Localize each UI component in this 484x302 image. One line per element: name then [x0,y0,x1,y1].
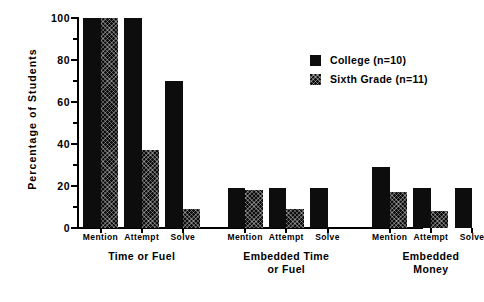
x-category-label: Attempt [269,232,304,242]
bar [286,209,304,228]
plot-area [78,18,422,228]
x-group-label: Embedded Timeor Fuel [243,250,329,275]
y-tick [71,227,77,229]
x-category-label: Solve [171,232,196,242]
x-group-label-line: Embedded Time [243,250,329,262]
x-category-label: Attempt [413,232,448,242]
bar [310,188,328,228]
bar [455,188,473,228]
bar [101,18,119,228]
x-category-label: Mention [227,232,262,242]
x-group-label-line: Time or Fuel [108,250,175,262]
y-tick-minor [73,164,77,166]
x-category-label: Mention [372,232,407,242]
legend-swatch-icon [310,55,321,66]
y-tick-label: 80 [38,54,70,66]
y-tick-label: 60 [38,96,70,108]
x-category-label: Solve [460,232,484,242]
x-group-label: Embedded Money [402,250,459,275]
bar [142,150,160,228]
x-category-label: Attempt [124,232,159,242]
bar [83,18,101,228]
x-category-label: Mention [83,232,118,242]
x-group-label-line: or Fuel [267,263,305,275]
y-tick-minor [73,38,77,40]
y-tick-minor [73,122,77,124]
chart-legend: College (n=10)Sixth Grade (n=11) [310,52,428,90]
y-tick-minor [73,80,77,82]
y-tick [71,17,77,19]
x-category-label: Solve [315,232,340,242]
y-tick [71,101,77,103]
bar [390,192,408,228]
x-group-label: Time or Fuel [108,250,175,263]
legend-label: Sixth Grade (n=11) [330,73,428,85]
bar [372,167,390,228]
y-tick-label: 20 [38,180,70,192]
bar [124,18,142,228]
bar [245,190,263,228]
y-tick-label: 0 [38,222,70,234]
y-tick-label: 40 [38,138,70,150]
y-tick [71,185,77,187]
legend-entry: Sixth Grade (n=11) [310,71,428,87]
y-tick-label: 100 [38,12,70,24]
bar [228,188,246,228]
legend-entry: College (n=10) [310,52,428,68]
legend-label: College (n=10) [330,54,406,66]
bar [183,209,201,228]
bar [269,188,287,228]
bar [413,188,431,228]
bar [165,81,183,228]
x-group-label-line: Embedded Money [402,250,459,275]
y-tick [71,59,77,61]
y-tick-minor [73,206,77,208]
bar [431,211,449,228]
y-axis-title: Percentage of Students [26,24,38,214]
y-tick [71,143,77,145]
legend-swatch-icon [310,74,321,85]
